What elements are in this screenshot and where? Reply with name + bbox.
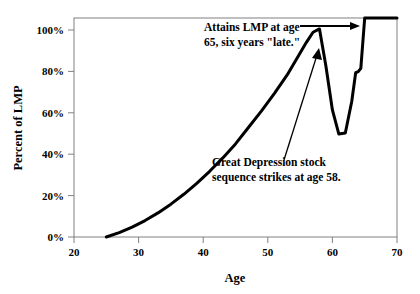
- x-axis-title: Age: [225, 271, 246, 285]
- x-tick-label-70: 70: [392, 246, 404, 258]
- y-tick-label-80: 80%: [42, 65, 64, 77]
- x-axis-ticks: [74, 237, 397, 243]
- y-tick-label-100: 100%: [37, 24, 65, 36]
- y-tick-label-20: 20%: [42, 190, 64, 202]
- y-axis-ticks: [68, 30, 74, 237]
- x-tick-label-40: 40: [198, 246, 210, 258]
- x-tick-label-20: 20: [69, 246, 81, 258]
- attains-lmp-note-line2: 65, six years "late.": [204, 36, 300, 49]
- x-tick-label-30: 30: [133, 246, 145, 258]
- chart-canvas: 100% 80% 60% 40% 20% 0% 20 30 40 50 60 7…: [0, 0, 420, 294]
- x-tick-label-50: 50: [262, 246, 274, 258]
- chart-container: 100% 80% 60% 40% 20% 0% 20 30 40 50 60 7…: [0, 0, 420, 294]
- y-axis-title: Percent of LMP: [11, 85, 25, 171]
- y-tick-label-0: 0%: [48, 231, 65, 243]
- attains-lmp-note-line1: Attains LMP at age: [204, 21, 300, 34]
- y-tick-label-60: 60%: [42, 107, 64, 119]
- great-depression-note-line2: sequence strikes at age 58.: [212, 171, 341, 184]
- great-depression-note-line1: Great Depression stock: [212, 156, 327, 169]
- plot-frame: [74, 18, 397, 237]
- x-tick-label-60: 60: [327, 246, 339, 258]
- y-tick-label-40: 40%: [42, 148, 64, 160]
